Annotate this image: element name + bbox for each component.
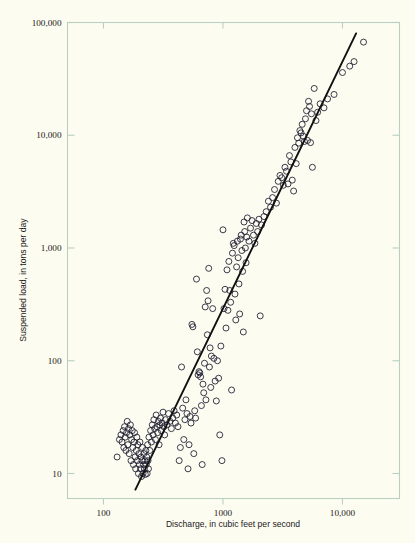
data-point [226,258,232,264]
y-tick-label-10,000: 10,000 [36,130,62,140]
data-point [302,116,308,122]
y-tick-label-100,000: 100,000 [32,18,62,28]
data-point [194,349,200,355]
axis-tick-labels: 100100010,000101001,00010,000100,000 [32,18,356,518]
data-point [225,307,231,313]
data-point [361,39,367,45]
plot-frame [68,23,400,499]
data-point [207,345,213,351]
data-point [229,387,235,393]
data-point [291,188,297,194]
data-point [181,437,187,443]
data-point [200,381,206,387]
y-tick-label-10: 10 [52,469,62,479]
data-point [224,267,230,273]
data-point [183,397,189,403]
data-point [193,415,199,421]
data-point [206,265,212,271]
data-point [265,198,271,204]
data-point [180,405,186,411]
data-point [177,445,183,451]
data-point [250,232,256,238]
data-point [241,219,247,225]
data-point [235,255,241,261]
data-point [272,187,278,193]
data-point [257,313,263,319]
data-point [229,250,235,256]
data-point [176,458,182,464]
data-point [124,418,130,424]
data-point [331,91,337,97]
data-point [218,343,224,349]
x-axis-title: Discharge, in cubic feet per second [166,519,300,529]
data-point [202,304,208,310]
data-point [192,408,198,414]
data-point [308,111,314,117]
data-point [299,121,305,127]
data-point [206,364,212,370]
data-point [198,403,204,409]
data-point [351,59,357,65]
data-point [147,447,153,453]
axis-ticks [68,23,400,505]
y-tick-label-100: 100 [48,356,62,366]
x-tick-label-1000: 1000 [214,508,233,518]
data-point [204,287,210,293]
data-point [240,329,246,335]
data-point [186,442,192,448]
data-point [114,454,120,460]
data-point [160,409,166,415]
data-point [238,232,244,238]
data-point [223,325,229,331]
data-point [249,218,255,224]
data-point [213,398,219,404]
data-point [248,225,254,231]
data-point [282,164,288,170]
data-point [234,264,240,270]
data-point [339,70,345,76]
data-point [193,276,199,282]
data-point [203,397,209,403]
data-point [237,311,243,317]
x-tick-label-10,000: 10,000 [330,508,356,518]
data-point [153,412,159,418]
figure-container: 100100010,000101001,00010,000100,000 Dis… [0,0,415,543]
data-point [220,227,226,233]
y-axis-title: Suspended load, in tons per day [18,218,28,342]
data-point [217,432,223,438]
data-point [188,420,194,426]
data-point [233,317,239,323]
data-point [210,306,216,312]
data-point [296,140,302,146]
data-point [127,422,133,428]
data-point [309,164,315,170]
data-point [289,177,295,183]
data-point [219,458,225,464]
regression-line [135,33,356,489]
data-point [191,451,197,457]
data-point [199,462,205,468]
data-point [242,229,248,235]
data-point [228,299,234,305]
data-points [114,39,366,479]
data-point [275,178,281,184]
data-point [311,85,317,91]
data-point [205,298,211,304]
data-point [286,153,292,159]
data-point [201,390,207,396]
data-point [168,426,174,432]
y-tick-label-1,000: 1,000 [41,243,62,253]
data-point [232,291,238,297]
data-point [179,364,185,370]
data-point [208,384,214,390]
data-point [185,466,191,472]
x-tick-label-100: 100 [97,508,111,518]
scatter-plot: 100100010,000101001,00010,000100,000 Dis… [0,0,415,543]
